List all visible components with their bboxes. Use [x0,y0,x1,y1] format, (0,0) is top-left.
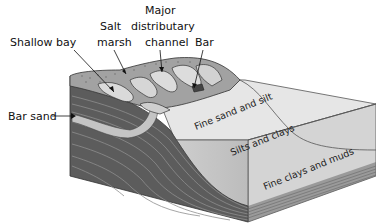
label-major-channel-3: channel [145,36,189,49]
label-bar-sand: Bar sand [8,110,57,123]
label-salt-marsh-2: marsh [97,36,132,49]
label-major-channel-1: Major [145,4,176,17]
label-salt-marsh-1: Salt [100,20,122,33]
label-bar: Bar [195,36,214,49]
label-major-channel-2: distributary [131,20,195,33]
delta-diagram: Shallow bay Salt marsh Major distributar… [0,0,376,224]
label-shallow-bay: Shallow bay [10,36,77,49]
